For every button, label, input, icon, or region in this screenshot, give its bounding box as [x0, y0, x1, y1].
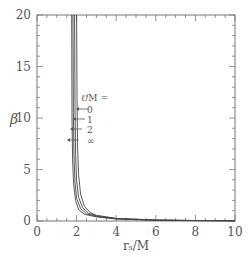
- curve-∞: [72, 15, 235, 221]
- plot-frame: [37, 15, 235, 221]
- y-tick-label: 20: [16, 8, 31, 22]
- y-tick-label: 0: [23, 214, 31, 228]
- chart: 024681005101520rₛ/Mβℓ̃/M =012∞: [0, 0, 252, 257]
- arrow-head-icon: [70, 127, 73, 131]
- x-tick-label: 8: [192, 225, 200, 239]
- x-tick-label: 0: [33, 225, 41, 239]
- x-tick-label: 4: [112, 225, 120, 239]
- curve-2: [73, 15, 235, 221]
- legend-entry: 1: [87, 115, 93, 125]
- legend-title: ℓ̃/M =: [81, 93, 108, 103]
- curve-1: [75, 15, 235, 221]
- x-tick-label: 10: [227, 225, 242, 239]
- y-tick-label: 5: [23, 163, 31, 177]
- y-tick-label: 15: [16, 60, 31, 74]
- curve-0: [77, 15, 235, 221]
- legend-entry: 0: [87, 105, 93, 115]
- y-axis-label: β: [9, 111, 18, 127]
- x-axis-label: rₛ/M: [123, 239, 149, 253]
- legend-entry: ∞: [87, 136, 95, 146]
- x-tick-label: 6: [152, 225, 160, 239]
- legend-entry: 2: [87, 125, 93, 135]
- arrow-head-icon: [67, 138, 70, 142]
- x-tick-label: 2: [73, 225, 81, 239]
